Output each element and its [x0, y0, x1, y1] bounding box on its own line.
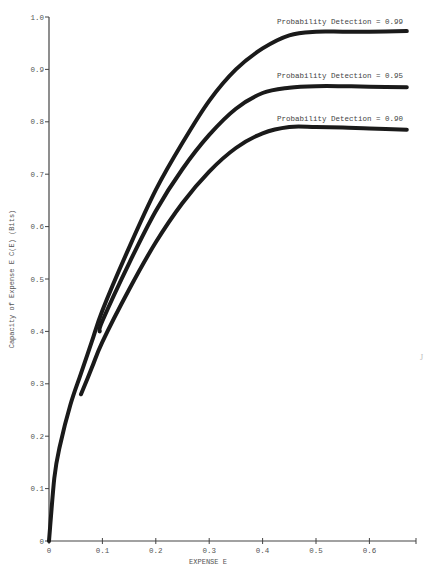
x-axis-title: EXPENSE E [189, 558, 227, 566]
x-tick-label: 0.4 [256, 547, 270, 555]
x-tick-label: 0.5 [309, 547, 323, 555]
y-tick-label: 0.9 [30, 66, 44, 74]
x-tick-label: 0.1 [96, 547, 110, 555]
x-tick-label: 0.6 [363, 547, 377, 555]
x-tick-label: 0.3 [202, 547, 216, 555]
y-tick-label: 0.2 [30, 433, 44, 441]
curve-pd-099 [49, 31, 407, 541]
y-tick-label: 0.1 [30, 485, 44, 493]
series-label-095: Probability Detection = 0.95 [277, 72, 404, 80]
y-axis-title: Capacity of Expense E C(E) (Bits) [8, 210, 16, 349]
x-tick-label: 0.2 [149, 547, 163, 555]
y-tick-label: 0.8 [30, 118, 44, 126]
y-tick-label: 0.6 [30, 223, 44, 231]
series-label-099: Probability Detection = 0.99 [277, 18, 403, 26]
y-tick-label: 0.3 [30, 380, 44, 388]
y-tick-label: 0.7 [30, 171, 44, 179]
stray-mark: J [420, 353, 423, 362]
series-label-090: Probability Detection = 0.90 [277, 115, 404, 123]
y-tick-label: 0.5 [30, 276, 44, 284]
y-tick-label: 1.0 [30, 14, 44, 22]
y-axis-ticks: 00.10.20.30.40.50.60.70.80.91.0 [30, 14, 49, 546]
x-tick-label: 0 [47, 547, 52, 555]
capacity-vs-expense-chart: 00.10.20.30.40.50.60.70.80.91.0 00.10.20… [0, 0, 426, 572]
curves [49, 31, 407, 541]
y-tick-label: 0 [39, 538, 44, 546]
y-tick-label: 0.4 [30, 328, 44, 336]
